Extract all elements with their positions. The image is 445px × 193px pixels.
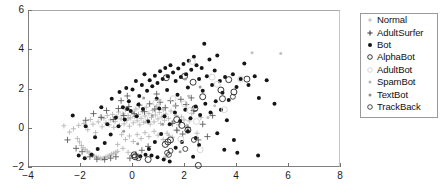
x-tick (288, 163, 289, 167)
filled-circle-icon (364, 76, 377, 88)
legend-item-label: SpamBot (377, 77, 415, 87)
open-circle-icon (364, 51, 377, 63)
y-tick-label: 6 (2, 4, 24, 15)
legend-item-bot[interactable]: Bot (361, 39, 437, 51)
x-tick (340, 163, 341, 167)
legend-item-alphabot[interactable]: AlphaBot (361, 51, 437, 63)
legend-item-spambot[interactable]: SpamBot (361, 76, 437, 88)
y-tick-label: −2 (2, 161, 24, 172)
legend-item-label: Bot (377, 40, 391, 50)
x-tick-label: 8 (328, 170, 352, 181)
legend-item-label: AdultBot (377, 65, 412, 75)
y-tick (28, 89, 32, 90)
open-circle-icon (364, 101, 377, 113)
x-tick-label: 6 (276, 170, 300, 181)
x-tick-label: 0 (120, 170, 144, 181)
scatter-plot-figure: −4−202468 −20246 NormalAdultSurferBotAlp… (0, 0, 445, 193)
legend-item-trackback[interactable]: TrackBack (361, 101, 437, 113)
legend-item-label: AlphaBot (377, 52, 415, 62)
x-tick (236, 163, 237, 167)
legend: NormalAdultSurferBotAlphaBotAdultBotSpam… (360, 13, 438, 118)
x-tick (184, 163, 185, 167)
filled-circle-icon (364, 39, 377, 51)
plus-icon (364, 14, 377, 26)
series-bot (71, 42, 277, 164)
x-tick (80, 163, 81, 167)
y-tick-label: 2 (2, 83, 24, 94)
data-points-layer (28, 10, 340, 167)
legend-item-label: TextBot (377, 90, 408, 100)
legend-item-adultbot[interactable]: AdultBot (361, 64, 437, 76)
legend-item-textbot[interactable]: TextBot (361, 88, 437, 100)
x-tick-label: 2 (172, 170, 196, 181)
legend-item-label: Normal (377, 15, 407, 25)
legend-item-normal[interactable]: Normal (361, 14, 437, 26)
plot-area (28, 10, 340, 167)
filled-circle-icon (364, 89, 377, 101)
y-tick-label: 4 (2, 43, 24, 54)
legend-item-label: TrackBack (377, 102, 421, 112)
x-tick (132, 163, 133, 167)
x-tick-label: 4 (224, 170, 248, 181)
y-tick-label: 0 (2, 122, 24, 133)
legend-item-adultsurfer[interactable]: AdultSurfer (361, 26, 437, 38)
plus-icon (364, 27, 377, 39)
y-tick (28, 10, 32, 11)
y-tick (28, 128, 32, 129)
open-circle-icon (364, 64, 377, 76)
x-tick-label: −2 (68, 170, 92, 181)
legend-item-label: AdultSurfer (377, 28, 423, 38)
y-tick (28, 49, 32, 50)
y-tick (28, 167, 32, 168)
